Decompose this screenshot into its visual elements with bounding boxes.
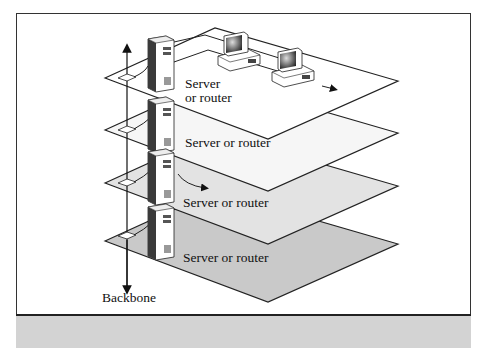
layer-1-label-line1: Server [185, 77, 220, 91]
layer-1-label-line2: or router [185, 91, 232, 105]
network-diagram [0, 0, 481, 348]
backbone-label: Backbone [102, 291, 156, 305]
layer-3-label: Server or router [183, 196, 268, 210]
layer-2-label: Server or router [185, 136, 270, 150]
layer-4-label: Server or router [183, 251, 268, 265]
caption-strip [16, 314, 471, 348]
